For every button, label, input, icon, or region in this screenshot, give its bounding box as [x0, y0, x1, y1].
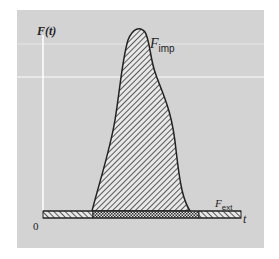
external-force-label: Fext: [214, 197, 233, 212]
external-force-left: [43, 211, 93, 218]
impulse-diagram: F(t) t 0 Fimp Fext: [0, 0, 279, 259]
origin-label: 0: [33, 220, 39, 232]
x-axis-label: t: [243, 212, 247, 226]
f-imp-symbol: F: [149, 36, 159, 51]
overlap-region: [93, 211, 199, 218]
y-axis-label: F(t): [36, 24, 56, 38]
f-imp-subscript: imp: [159, 43, 176, 54]
external-force-right: [199, 211, 241, 218]
f-ext-subscript: ext: [222, 203, 233, 212]
impulsive-force-label: Fimp: [149, 36, 175, 54]
impulsive-force-area: [92, 29, 190, 211]
